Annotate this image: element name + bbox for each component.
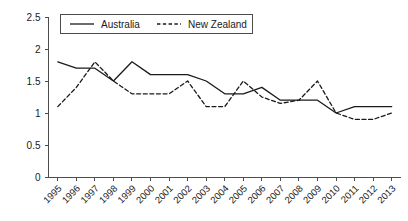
x-axis: 1995199619971998199920002001200220032004… (41, 177, 401, 205)
x-tick-label-2002: 2002 (171, 183, 194, 206)
x-tick-label-2012: 2012 (356, 183, 379, 206)
y-tick-label-1: 1 (35, 108, 41, 119)
x-tick-label-2006: 2006 (245, 183, 268, 206)
x-tick-label-2011: 2011 (338, 183, 360, 205)
x-tick-label-2004: 2004 (208, 183, 231, 206)
x-tick-label-1996: 1996 (60, 183, 83, 206)
y-tick-label-0.5: 0.5 (27, 140, 41, 151)
x-tick-label-2010: 2010 (319, 183, 342, 206)
chart-legend: Australia New Zealand (61, 15, 253, 34)
x-tick-label-2005: 2005 (226, 183, 249, 206)
x-tick-label-2007: 2007 (264, 183, 287, 206)
x-tick-label-1999: 1999 (115, 183, 138, 206)
series-line-australia (58, 62, 392, 113)
y-axis-ticks (45, 17, 49, 177)
x-tick-label-1995: 1995 (41, 183, 64, 206)
x-tick-label-2000: 2000 (134, 183, 157, 206)
x-tick-label-2009: 2009 (301, 183, 324, 206)
x-tick-label-1997: 1997 (78, 183, 101, 206)
x-axis-tick-labels: 1995199619971998199920002001200220032004… (41, 183, 398, 206)
x-tick-label-2013: 2013 (375, 183, 398, 206)
legend-label-australia: Australia (101, 19, 140, 30)
x-tick-label-2001: 2001 (152, 183, 175, 206)
y-axis: 00.511.522.5 (27, 12, 49, 183)
y-tick-label-0: 0 (35, 172, 41, 183)
x-tick-label-1998: 1998 (97, 183, 120, 206)
y-tick-label-1.5: 1.5 (27, 76, 41, 87)
legend-label-new-zealand: New Zealand (188, 19, 247, 30)
y-tick-label-2: 2 (35, 44, 41, 55)
y-tick-label-2.5: 2.5 (27, 12, 41, 23)
chart-canvas: 00.511.522.5 199519961997199819992000200… (0, 0, 408, 221)
data-series-group (58, 62, 392, 120)
line-chart: 00.511.522.5 199519961997199819992000200… (0, 0, 408, 221)
x-tick-label-2003: 2003 (189, 183, 212, 206)
y-axis-tick-labels: 00.511.522.5 (27, 12, 41, 183)
x-tick-label-2008: 2008 (282, 183, 305, 206)
